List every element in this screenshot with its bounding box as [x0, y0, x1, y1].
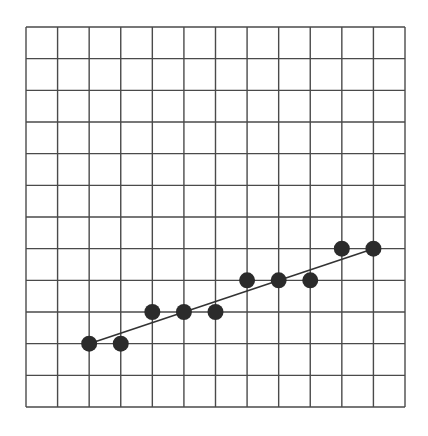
- data-point: [239, 272, 255, 288]
- trend-line-segment: [89, 249, 373, 344]
- data-point: [271, 272, 287, 288]
- data-point: [113, 336, 129, 352]
- scatter-plot: [0, 0, 428, 436]
- data-point: [81, 336, 97, 352]
- data-point: [144, 304, 160, 320]
- data-point: [334, 241, 350, 257]
- data-point: [208, 304, 224, 320]
- grid: [26, 27, 405, 407]
- data-point: [176, 304, 192, 320]
- data-point: [302, 272, 318, 288]
- data-point: [365, 241, 381, 257]
- trend-line: [89, 249, 373, 344]
